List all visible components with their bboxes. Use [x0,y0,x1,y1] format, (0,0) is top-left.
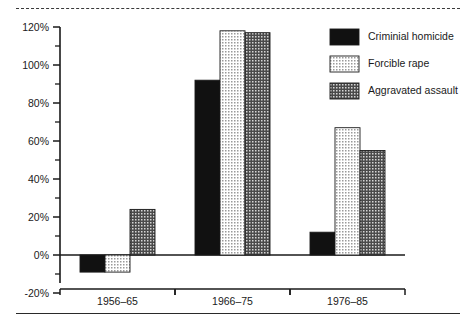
bar-196675-series1 [220,31,245,255]
chart-legend: Criminial homicideForcible rapeAggravate… [330,29,458,99]
x-axis-tick-label: 1956–65 [97,295,138,307]
bar-195665-series1 [105,255,130,272]
bar-196675-series0 [195,80,220,255]
legend-label-0: Criminial homicide [368,30,454,42]
y-axis-tick-label: 60% [28,135,49,147]
bar-197685-series0 [310,232,335,255]
bar-197685-series2 [360,151,385,256]
y-axis-tick-label: 0% [34,249,49,261]
y-axis-tick-label: -20% [24,287,49,299]
legend-swatch-0 [330,29,359,45]
y-axis-tick-label: 40% [28,173,49,185]
chart-figure: 120%100%80%60%40%20%0%-20% 1956–651966–7… [0,0,474,324]
x-axis-tick-label: 1966–75 [212,295,253,307]
y-axis-tick-label: 120% [22,21,49,33]
y-axis-tick-label: 80% [28,97,49,109]
legend-label-2: Aggravated assault [368,84,458,96]
y-axis: 120%100%80%60%40%20%0%-20% [22,21,60,299]
bar-195665-series2 [130,209,155,255]
bar-195665-series0 [80,255,105,272]
legend-swatch-2 [330,83,359,99]
bar-196675-series2 [245,33,270,255]
y-axis-tick-label: 20% [28,211,49,223]
y-axis-tick-label: 100% [22,59,49,71]
bar-197685-series1 [335,128,360,255]
bar-chart-svg: 120%100%80%60%40%20%0%-20% 1956–651966–7… [0,0,474,324]
legend-swatch-1 [330,56,359,72]
x-axis-tick-label: 1976–85 [327,295,368,307]
legend-label-1: Forcible rape [368,57,429,69]
